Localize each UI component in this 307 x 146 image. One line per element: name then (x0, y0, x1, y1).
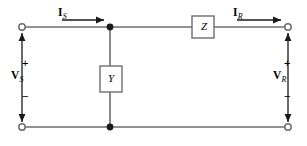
wire-group (22, 27, 288, 127)
terminal-top-left (19, 24, 25, 30)
label-receiving-current-symbol: I (233, 6, 237, 18)
junction-bottom-center (107, 124, 114, 131)
label-source-current: IS (58, 7, 66, 19)
receiving-polarity-minus: − (284, 91, 290, 102)
label-source-current-subscript: S (63, 12, 67, 21)
circuit-schematic-canvas (0, 0, 307, 146)
source-polarity-plus: + (22, 58, 28, 69)
terminal-bottom-right (285, 124, 291, 130)
label-source-voltage-symbol: V (11, 69, 19, 81)
terminal-bottom-left (19, 124, 25, 130)
label-source-current-symbol: I (58, 6, 62, 18)
series-impedance-label: Z (193, 21, 215, 32)
label-receiving-voltage-symbol: V (273, 69, 281, 81)
source-polarity-minus: − (22, 91, 28, 102)
junction-top-center (107, 24, 114, 31)
label-receiving-current-subscript: R (238, 12, 243, 21)
receiving-polarity-plus: + (284, 58, 290, 69)
label-source-voltage: VS (11, 70, 23, 82)
current-arrow-source (62, 17, 104, 24)
terminal-top-right (285, 24, 291, 30)
shunt-admittance-label: Y (100, 73, 122, 84)
label-source-voltage-subscript: S (20, 75, 24, 84)
voltage-arrow-receiving-foot (285, 114, 292, 122)
circuit-diagram: IS IR VS VR Z Y + − + − (0, 0, 307, 146)
label-receiving-current: IR (233, 7, 242, 19)
label-receiving-voltage: VR (273, 70, 286, 82)
voltage-arrow-source-foot (19, 114, 26, 122)
label-receiving-voltage-subscript: R (282, 75, 287, 84)
current-arrow-receiving (237, 17, 281, 24)
